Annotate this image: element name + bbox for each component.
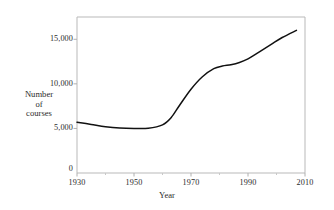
x-tick-label-1970: 1970 bbox=[171, 178, 211, 187]
x-axis-major-ticks bbox=[77, 173, 305, 177]
y-axis-title-line-3: courses bbox=[8, 109, 70, 119]
y-tick-label-5000: 5,000 bbox=[29, 123, 73, 132]
y-axis-major-ticks bbox=[74, 39, 78, 128]
x-tick-label-1930: 1930 bbox=[57, 178, 97, 187]
axis-frame bbox=[77, 17, 305, 173]
y-axis-title: Number of courses bbox=[8, 90, 70, 119]
data-series-line bbox=[77, 30, 296, 128]
x-axis-title: Year bbox=[0, 190, 334, 200]
x-tick-label-2010: 2010 bbox=[285, 178, 325, 187]
y-tick-label-15000: 15,000 bbox=[29, 34, 73, 43]
y-tick-label-10000: 10,000 bbox=[29, 79, 73, 88]
chart-figure: 1930195019701990201005,00010,00015,000 N… bbox=[0, 0, 334, 210]
x-tick-label-1990: 1990 bbox=[228, 178, 268, 187]
y-tick-label-0: 0 bbox=[29, 164, 73, 173]
x-tick-label-1950: 1950 bbox=[114, 178, 154, 187]
